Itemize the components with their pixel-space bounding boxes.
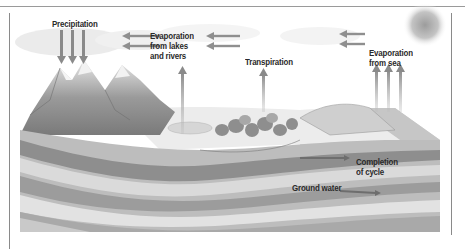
mountains [20, 60, 175, 135]
label-completion: Completion of cycle [356, 157, 398, 177]
label-ground-water: Ground water [292, 183, 341, 193]
water-cycle-illustration [0, 0, 465, 251]
label-transpiration: Transpiration [245, 57, 293, 67]
label-precipitation: Precipitation [52, 19, 98, 29]
precipitation-arrows [57, 30, 88, 64]
sun-icon [403, 3, 447, 47]
label-evaporation-sea: Evaporation from sea [369, 48, 413, 68]
label-evaporation-lakes: Evaporation from lakes and rivers [150, 31, 194, 61]
